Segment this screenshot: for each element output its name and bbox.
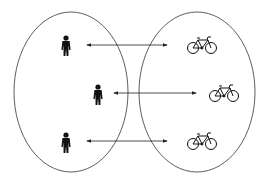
bicycle-icon: [188, 133, 217, 150]
bicycle-icon: [188, 37, 217, 54]
people-set-ellipse: [14, 12, 128, 172]
person-icon: [61, 132, 70, 153]
person-icon: [93, 84, 102, 105]
person-icon: [61, 35, 70, 56]
bicycle-icon: [210, 85, 239, 102]
mapping-diagram: [0, 0, 266, 182]
